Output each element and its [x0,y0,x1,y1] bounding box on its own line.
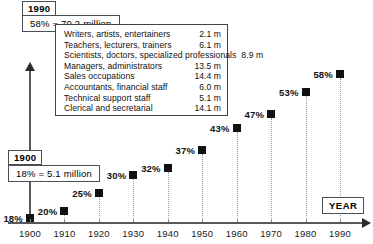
x-axis-line [8,222,364,224]
data-point-marker[interactable] [267,110,275,118]
x-axis-label-box: YEAR [322,197,364,214]
x-axis-tick-mark [64,219,65,222]
x-axis-tick-mark [133,219,134,222]
x-axis-tick-label: 1990 [320,228,360,239]
data-point-label: 32% [115,163,161,174]
occupation-value: 5.1 m [194,93,221,104]
occupation-value: 2.1 m [194,29,221,40]
occupation-value: 13.5 m [189,61,221,72]
occupation-row: Technical support staff5.1 m [64,93,221,104]
x-axis-tick-mark [202,219,203,222]
occupation-name: Scientists, doctors, specialized profess… [64,50,236,61]
data-point-dropline [202,154,203,222]
callout-1900-value: 18% = 5.1 million [8,165,100,182]
callout-1990-year: 1990 [22,1,56,16]
data-point-label: 25% [46,188,92,199]
data-point-dropline [271,118,272,222]
data-point-marker[interactable] [60,207,68,215]
data-point-dropline [306,96,307,222]
data-point-dropline [168,172,169,222]
occupation-value: 14.4 m [189,71,221,82]
x-axis-tick-mark [99,219,100,222]
occupation-name: Writers, artists, entertainers [64,29,170,40]
data-point-dropline [237,132,238,222]
occupation-name: Teachers, lecturers, trainers [64,40,171,51]
data-point-marker[interactable] [164,164,172,172]
data-point-label: 43% [184,123,230,134]
data-point-marker[interactable] [233,124,241,132]
data-point-marker[interactable] [95,189,103,197]
data-point-label: 53% [253,87,299,98]
occupation-value: 8.9 m [236,50,263,61]
occupation-name: Accountants, financial staff [64,82,167,93]
y-axis-arrow-icon [25,62,35,71]
occupation-value: 6.0 m [194,82,221,93]
occupation-row: Accountants, financial staff6.0 m [64,82,221,93]
occupation-value: 14.1 m [189,103,221,114]
x-axis-tick-mark [306,219,307,222]
y-axis-line [29,70,31,223]
chart-container: 18%190020%191025%192030%193032%194037%19… [0,0,373,244]
data-point-marker[interactable] [302,88,310,96]
occupation-row: Writers, artists, entertainers2.1 m [64,29,221,40]
x-axis-tick-mark [237,219,238,222]
data-point-dropline [133,179,134,222]
data-point-label: 20% [11,206,57,217]
occupation-row: Teachers, lecturers, trainers6.1 m [64,40,221,51]
data-point-marker[interactable] [198,146,206,154]
data-point-label: 37% [149,145,195,156]
occupation-row: Sales occupations14.4 m [64,71,221,82]
x-axis-tick-mark [271,219,272,222]
occupation-name: Clerical and secretarial [64,103,153,114]
occupation-row: Clerical and secretarial14.1 m [64,103,221,114]
data-point-marker[interactable] [336,70,344,78]
occupation-breakdown-box: Writers, artists, entertainers2.1 mTeach… [55,24,228,116]
occupation-row: Scientists, doctors, specialized profess… [64,50,221,61]
occupation-row: Managers, administrators13.5 m [64,61,221,72]
occupation-value: 6.1 m [194,40,221,51]
occupation-name: Managers, administrators [64,61,162,72]
occupation-name: Sales occupations [64,71,135,82]
x-axis-arrow-icon [362,218,371,228]
occupation-name: Technical support staff [64,93,151,104]
x-axis-tick-mark [340,219,341,222]
callout-1900-year: 1900 [8,150,42,165]
data-point-label: 58% [287,69,333,80]
x-axis-tick-mark [30,219,31,222]
x-axis-tick-mark [168,219,169,222]
